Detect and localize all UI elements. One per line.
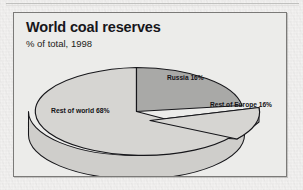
pie-chart-svg: Russia 16% Rest of Europe 16% Rest of wo… xyxy=(14,49,286,176)
top-horizontal-rule xyxy=(6,3,299,4)
figure-page: World coal reserves % of total, 1998 Rus… xyxy=(0,0,303,190)
pie-chart-area: Russia 16% Rest of Europe 16% Rest of wo… xyxy=(14,49,286,176)
pie-label-rest-of-europe: Rest of Europe 16% xyxy=(210,101,272,109)
pie-label-rest-of-world: Rest of world 68% xyxy=(51,107,110,114)
top-horizontal-rule-secondary xyxy=(6,5,299,6)
chart-frame: World coal reserves % of total, 1998 Rus… xyxy=(13,12,287,177)
chart-subtitle: % of total, 1998 xyxy=(26,38,92,49)
pie-label-russia: Russia 16% xyxy=(167,74,204,81)
chart-title: World coal reserves xyxy=(26,19,161,35)
